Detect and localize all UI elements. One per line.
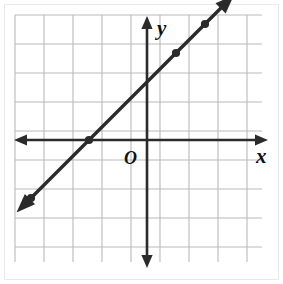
origin-label: O — [124, 148, 137, 168]
plotted-point — [172, 49, 180, 57]
graph-canvas: y x O — [0, 0, 283, 284]
x-axis-label: x — [255, 144, 267, 168]
plotted-point — [201, 20, 209, 28]
figure-border — [5, 5, 279, 280]
coordinate-plane-figure: y x O — [0, 0, 283, 284]
plotted-point — [27, 194, 35, 202]
